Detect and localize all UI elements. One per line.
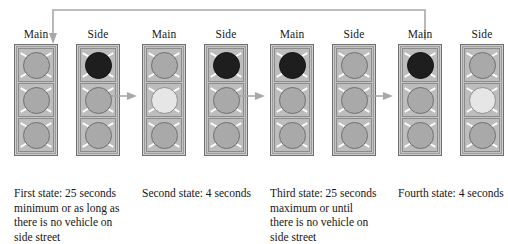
lamp-cell-top [464, 48, 500, 82]
lamp-cell-middle [402, 83, 438, 117]
side-label-4: Side [460, 28, 504, 41]
lamp-side-bottom [213, 122, 240, 149]
lamp-cell-bottom [208, 118, 244, 152]
state-caption-2: Second state: 4 seconds [142, 186, 272, 201]
side-label-1: Side [76, 28, 120, 41]
lamp-cell-top [274, 48, 310, 82]
lamp-cell-middle [336, 83, 372, 117]
lamp-main-top [151, 52, 178, 79]
lamp-main-top [407, 52, 434, 79]
lamp-main-middle [23, 87, 50, 114]
lamp-cell-middle [146, 83, 182, 117]
lamp-main-bottom [151, 122, 178, 149]
lamp-cell-bottom [464, 118, 500, 152]
lamp-side-bottom [469, 122, 496, 149]
lamp-main-bottom [279, 122, 306, 149]
main-signal-head-2: Main [142, 44, 186, 156]
lamp-cell-top [336, 48, 372, 82]
state-caption-4: Fourth state: 4 seconds [398, 186, 508, 201]
lamp-main-top [23, 52, 50, 79]
lamp-cell-top [80, 48, 116, 82]
lamp-cell-top [146, 48, 182, 82]
main-signal-head-3: Main [270, 44, 314, 156]
lamp-cell-bottom [402, 118, 438, 152]
lamp-cell-bottom [18, 118, 54, 152]
lamp-cell-middle [18, 83, 54, 117]
main-signal-head-1: Main [14, 44, 58, 156]
lamp-side-top [85, 52, 112, 79]
lamp-cell-middle [208, 83, 244, 117]
signal-housing [270, 44, 314, 156]
lamp-side-top [213, 52, 240, 79]
lamp-main-top [279, 52, 306, 79]
lamp-cell-top [402, 48, 438, 82]
side-label-2: Side [204, 28, 248, 41]
lamp-cell-top [208, 48, 244, 82]
lamp-cell-bottom [80, 118, 116, 152]
lamp-main-middle [151, 87, 178, 114]
signal-housing [460, 44, 504, 156]
lamp-side-middle [213, 87, 240, 114]
lamp-cell-top [18, 48, 54, 82]
lamp-cell-middle [274, 83, 310, 117]
main-label-1: Main [14, 28, 58, 41]
lamp-cell-bottom [146, 118, 182, 152]
lamp-main-middle [279, 87, 306, 114]
state-caption-1: First state: 25 seconds minimum or as lo… [14, 186, 136, 244]
signal-housing [398, 44, 442, 156]
lamp-main-middle [407, 87, 434, 114]
state-caption-3: Third state: 25 seconds maximum or until… [270, 186, 392, 244]
lamp-cell-bottom [336, 118, 372, 152]
lamp-side-bottom [85, 122, 112, 149]
signal-housing [142, 44, 186, 156]
side-label-3: Side [332, 28, 376, 41]
side-signal-head-4: Side [460, 44, 504, 156]
signal-housing [14, 44, 58, 156]
lamp-cell-bottom [274, 118, 310, 152]
lamp-side-middle [341, 87, 368, 114]
lamp-side-top [469, 52, 496, 79]
main-label-3: Main [270, 28, 314, 41]
lamp-side-top [341, 52, 368, 79]
lamp-side-middle [469, 87, 496, 114]
lamp-cell-middle [464, 83, 500, 117]
lamp-side-bottom [341, 122, 368, 149]
lamp-side-middle [85, 87, 112, 114]
lamp-main-bottom [407, 122, 434, 149]
lamp-cell-middle [80, 83, 116, 117]
lamp-main-bottom [23, 122, 50, 149]
main-label-4: Main [398, 28, 442, 41]
main-signal-head-4: Main [398, 44, 442, 156]
main-label-2: Main [142, 28, 186, 41]
